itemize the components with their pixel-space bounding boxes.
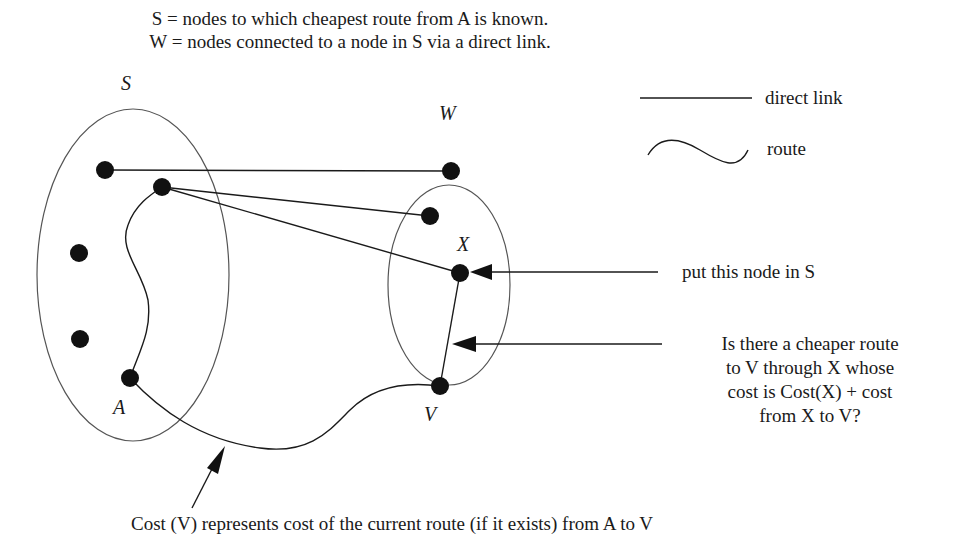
node-a-label: A	[113, 396, 125, 419]
set-w-label: W	[439, 102, 456, 125]
set-s-ellipse	[37, 109, 229, 441]
node-x	[451, 264, 469, 282]
set-s-label: S	[121, 72, 131, 95]
arrow-cost-v-shaft	[192, 465, 214, 508]
node-v-label: V	[424, 403, 436, 426]
link-s2-x	[162, 187, 460, 273]
node-s4	[71, 330, 89, 348]
dijkstra-diagram	[0, 0, 961, 554]
route-a-s2	[126, 187, 162, 378]
link-s2-w2	[162, 187, 430, 216]
node-s3	[70, 244, 88, 262]
node-s1	[96, 161, 114, 179]
node-v	[431, 377, 449, 395]
arrow-put-in-s-head	[470, 264, 492, 280]
annotation-cost-v: Cost (V) represents cost of the current …	[131, 513, 653, 535]
link-x-v	[440, 273, 460, 386]
arrow-cost-v-head	[207, 446, 225, 474]
route-a-v	[130, 378, 440, 449]
annotation-cheaper-route: Is there a cheaper route to V through X …	[660, 332, 960, 428]
set-w-ellipse	[388, 185, 510, 385]
node-x-label: X	[457, 233, 469, 256]
legend-route-curve	[648, 140, 748, 163]
legend-route-label: route	[767, 138, 806, 160]
node-s2	[153, 178, 171, 196]
node-w1	[442, 162, 460, 180]
node-w2	[421, 207, 439, 225]
node-a	[121, 369, 139, 387]
arrow-cheaper-route-head	[452, 336, 476, 352]
link-s1-w1	[105, 170, 451, 171]
legend-direct-link-label: direct link	[765, 87, 843, 109]
annotation-put-in-s: put this node in S	[682, 261, 815, 283]
